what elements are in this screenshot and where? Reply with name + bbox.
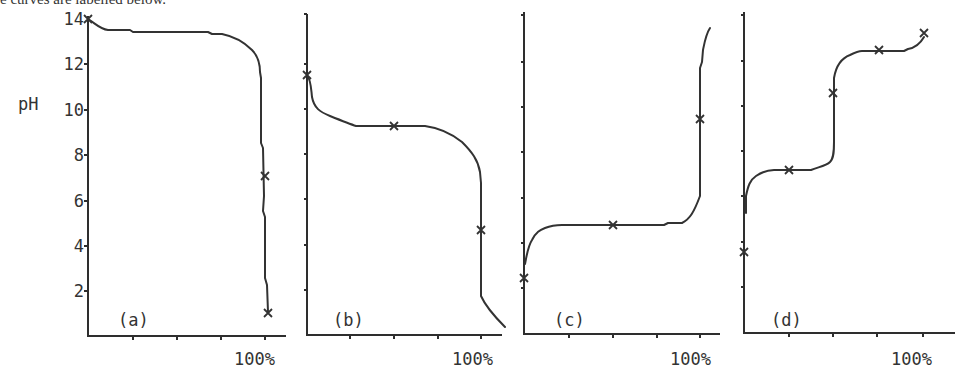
y-tick-2: 2	[74, 281, 84, 301]
panel-d-axes	[744, 12, 955, 333]
panel-c-x100-label: 100%	[670, 349, 711, 369]
panel-d-x100-label: 100%	[891, 349, 932, 369]
panel-b-curve	[307, 75, 505, 327]
panel-c-markers	[520, 115, 704, 282]
panel-d-curve	[746, 37, 924, 213]
panel-c-ticks	[521, 15, 700, 338]
y-tick-10: 10	[64, 100, 84, 120]
panel-b-markers	[303, 71, 485, 234]
panel-b-x100-label: 100%	[452, 349, 493, 369]
y-tick-6: 6	[74, 191, 84, 211]
panel-a-markers	[84, 15, 272, 317]
y-tick-labels: 14 12 10 8 6 4 2	[64, 9, 84, 301]
panel-a-label: (a)	[118, 310, 149, 330]
panel-c-axes	[524, 12, 720, 334]
y-tick-14: 14	[64, 9, 84, 29]
panel-a-x100-label: 100%	[234, 349, 275, 369]
panel-a-ticks	[84, 64, 265, 340]
panel-d: (d) 100%	[740, 12, 955, 369]
y-tick-8: 8	[74, 145, 84, 165]
panel-c-curve	[525, 28, 710, 264]
y-tick-4: 4	[74, 236, 84, 256]
panel-b-ticks	[304, 14, 481, 339]
y-axis-label: pH	[18, 94, 38, 114]
panel-b-axes	[307, 14, 502, 335]
panel-a-axes	[88, 16, 286, 336]
panel-c: (c) 100%	[520, 12, 720, 369]
panel-a: (a) 100%	[84, 15, 286, 369]
y-tick-12: 12	[64, 54, 84, 74]
panel-d-ticks	[741, 15, 923, 337]
panel-d-label: (d)	[771, 310, 802, 330]
panel-c-label: (c)	[554, 310, 585, 330]
panel-a-curve	[88, 19, 268, 312]
panel-b-label: (b)	[333, 310, 364, 330]
titration-figure: pH 14 12 10 8 6 4 2 (a) 100%	[0, 0, 961, 375]
panel-b: (b) 100%	[303, 14, 505, 369]
